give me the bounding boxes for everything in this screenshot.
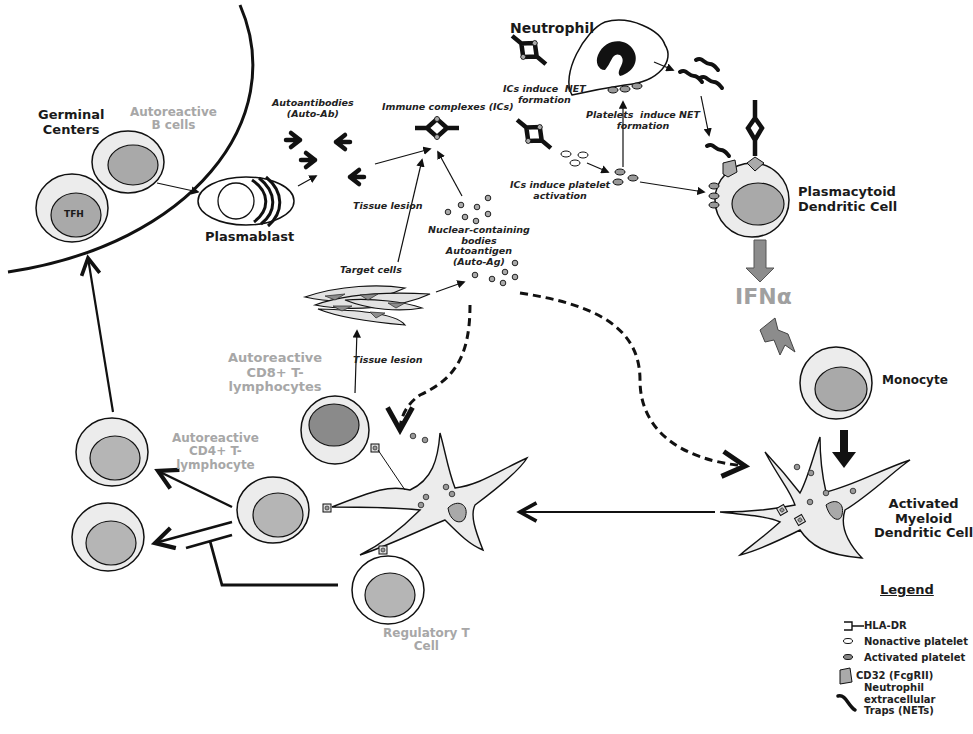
net-strands [680,59,722,88]
tfh-cell [36,174,108,242]
ics-induce-platelet-label: ICs induce platelet activation [510,180,610,201]
ics-induce-net-label: ICs induce NET formation [503,84,586,105]
legend-item-cd32: CD32 (FcgRII) [856,670,933,682]
nonactive-platelet-icon [844,639,853,644]
lightning-icon [760,318,795,355]
nuclear-bodies-label: Nuclear-containing bodies Autoantigen (A… [428,225,530,268]
cd4-label: Autoreactive CD4+ T- lymphocyte [172,432,259,472]
target-cells-label: Target cells [340,265,402,276]
activated-platelet-icon [844,655,853,660]
legend-item-nonactive-platelet: Nonactive platelet [864,636,968,648]
neutrophil-label: Neutrophil [510,21,594,37]
cd4-t-cell [237,477,309,543]
dashed-arrow-to-mdc [520,293,745,466]
hla-dr-icon [844,622,864,630]
legend-item-hla-dr: HLA-DR [864,620,907,632]
germinal-centers-label: Germinal Centers [38,108,104,137]
regulatory-t-cell [352,556,424,624]
plasmacytoid-dendritic-cell [709,100,789,237]
monocyte-label: Monocyte [882,374,948,387]
nonactive-platelets [561,151,588,166]
target-cells [305,286,430,325]
plasmablast-label: Plasmablast [205,230,294,245]
platelets-induce-net-label: Platelets induce NET formation [586,110,700,131]
activated-platelets [613,169,638,185]
monocyte-to-mdc-arrow-icon [832,430,856,468]
legend-title: Legend [880,582,934,597]
ifn-alpha-label: IFNα [735,285,792,310]
treg-label: Regulatory T Cell [383,627,470,654]
autoreactive-b-cell [92,131,164,193]
cd32-icon [840,668,852,684]
plasmablast-cell [198,177,294,226]
net-icon [838,696,855,710]
legend-item-activated-platelet: Activated platelet [864,652,965,664]
immune-complex-icon [415,117,459,140]
autoantibody-icons [286,133,364,184]
cd8-t-cell [301,396,369,464]
dashed-arrow-to-dc [400,305,470,430]
daughter-cell-upper [76,418,148,486]
immune-complexes-label: Immune complexes (ICs) [382,102,514,113]
tfh-label: TFH [64,209,84,219]
autoreactive-b-cells-label: Autoreactive B cells [130,106,217,133]
ifn-arrow-icon [746,240,774,282]
autoantibodies-label: Autoantibodies (Auto-Ab) [272,98,354,119]
sle-pathogenesis-diagram: Germinal Centers Autoreactive B cells TF… [0,0,973,734]
daughter-cell-lower [72,503,144,571]
cd8-label: Autoreactive CD8+ T- lymphocytes [228,351,322,395]
activated-mdc-label: Activated Myeloid Dendritic Cell [874,497,973,541]
legend-item-nets: Neutrophil extracellular Traps (NETs) [864,682,935,717]
monocyte-cell [800,347,872,419]
tissue-lesion-upper-label: Tissue lesion [353,201,422,212]
pdc-label: Plasmacytoid Dendritic Cell [798,185,897,214]
tissue-lesion-lower-label: Tissue lesion [353,355,422,366]
legend-icons [838,622,864,710]
